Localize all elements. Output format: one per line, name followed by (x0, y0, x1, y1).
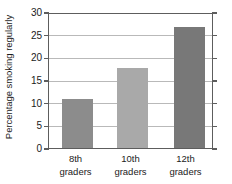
axis-tick (212, 12, 217, 13)
y-axis-tick-label: 30 (24, 8, 42, 18)
axis-tick (44, 126, 49, 127)
x-axis-tick-label-line: graders (158, 165, 213, 178)
axis-tick (212, 58, 217, 59)
x-axis-tick-label: 12thgraders (158, 152, 213, 178)
y-axis-tick-label: 0 (24, 144, 42, 154)
y-axis-tick-label: 5 (24, 121, 42, 131)
axis-tick (212, 126, 217, 127)
axis-tick (212, 103, 217, 104)
x-axis-tick-label-line: 8th (48, 152, 103, 165)
bar (62, 99, 93, 148)
axis-tick (44, 148, 49, 149)
x-axis-tick-label-line: graders (48, 165, 103, 178)
x-axis-tick-label: 8thgraders (48, 152, 103, 178)
y-axis-tick-label: 10 (24, 99, 42, 109)
plot-area (48, 13, 213, 149)
y-axis-tick-label: 20 (24, 53, 42, 63)
axis-tick (44, 80, 49, 81)
axis-tick (212, 35, 217, 36)
x-axis-tick-label: 10thgraders (103, 152, 158, 178)
axis-tick (44, 12, 49, 13)
y-axis-title: Percentage smoking regularly (1, 2, 17, 152)
axis-tick (44, 35, 49, 36)
bar-chart: Percentage smoking regularly 05101520253… (0, 0, 232, 184)
y-axis-tick-label: 25 (24, 31, 42, 41)
y-axis-tick-labels: 051015202530 (24, 13, 42, 149)
axis-tick (212, 148, 217, 149)
x-axis-tick-labels: 8thgraders10thgraders12thgraders (48, 152, 213, 182)
axis-tick (44, 103, 49, 104)
x-axis-tick-label-line: 12th (158, 152, 213, 165)
x-axis-tick-label-line: graders (103, 165, 158, 178)
axis-tick (212, 80, 217, 81)
bar (174, 27, 205, 148)
x-axis-tick-label-line: 10th (103, 152, 158, 165)
y-axis-tick-label: 15 (24, 76, 42, 86)
bar (117, 68, 148, 148)
gridline (49, 13, 212, 14)
axis-tick (44, 58, 49, 59)
